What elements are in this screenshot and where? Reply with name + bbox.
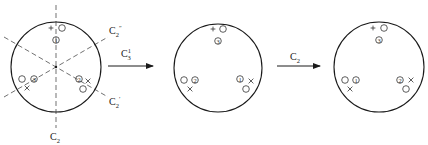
position-circle-icon [220,26,227,33]
center-point [55,66,57,68]
position-number: 1 [54,37,57,44]
position-number: 1 [354,77,357,84]
position-number: 3 [32,76,35,83]
position-circle-icon [381,25,388,32]
atom-group: 3 [211,26,227,45]
position-circle-icon [80,86,87,93]
position-circle-icon [342,77,349,84]
atom-group: 3 [371,25,388,44]
panel-initial: C2C2″C2′132 [4,5,122,144]
atom-group: 1 [49,25,66,44]
atom-group: 1 [342,77,360,92]
position-circle-icon [403,86,410,93]
position-circle-icon [19,76,26,83]
position-number: 2 [193,77,196,84]
stereogram-circle [334,22,424,112]
axis-label: C2′ [109,95,121,109]
axis-label: C2 [50,131,60,144]
position-circle-icon [181,77,188,84]
position-circle-icon [243,86,250,93]
atom-group: 1 [237,76,254,93]
position-number: 2 [77,76,80,83]
atom-group: 2 [76,76,91,93]
panel-after-C3: 321 [174,24,262,112]
position-number: 3 [377,37,380,44]
operation-label: C2 [290,51,300,64]
position-number: 3 [216,38,219,45]
operation-label: C13 [121,47,131,61]
position-number: 1 [238,76,241,83]
position-circle-icon [59,25,66,32]
atom-group: 2 [397,77,414,93]
symmetry-operation-diagram: C2C2″C2′132321312 C13C2 [0,0,428,145]
position-number: 2 [398,77,401,84]
atom-group: 2 [181,77,199,92]
panel-after-C2: 312 [334,22,424,112]
axis-label: C2″ [109,24,122,38]
